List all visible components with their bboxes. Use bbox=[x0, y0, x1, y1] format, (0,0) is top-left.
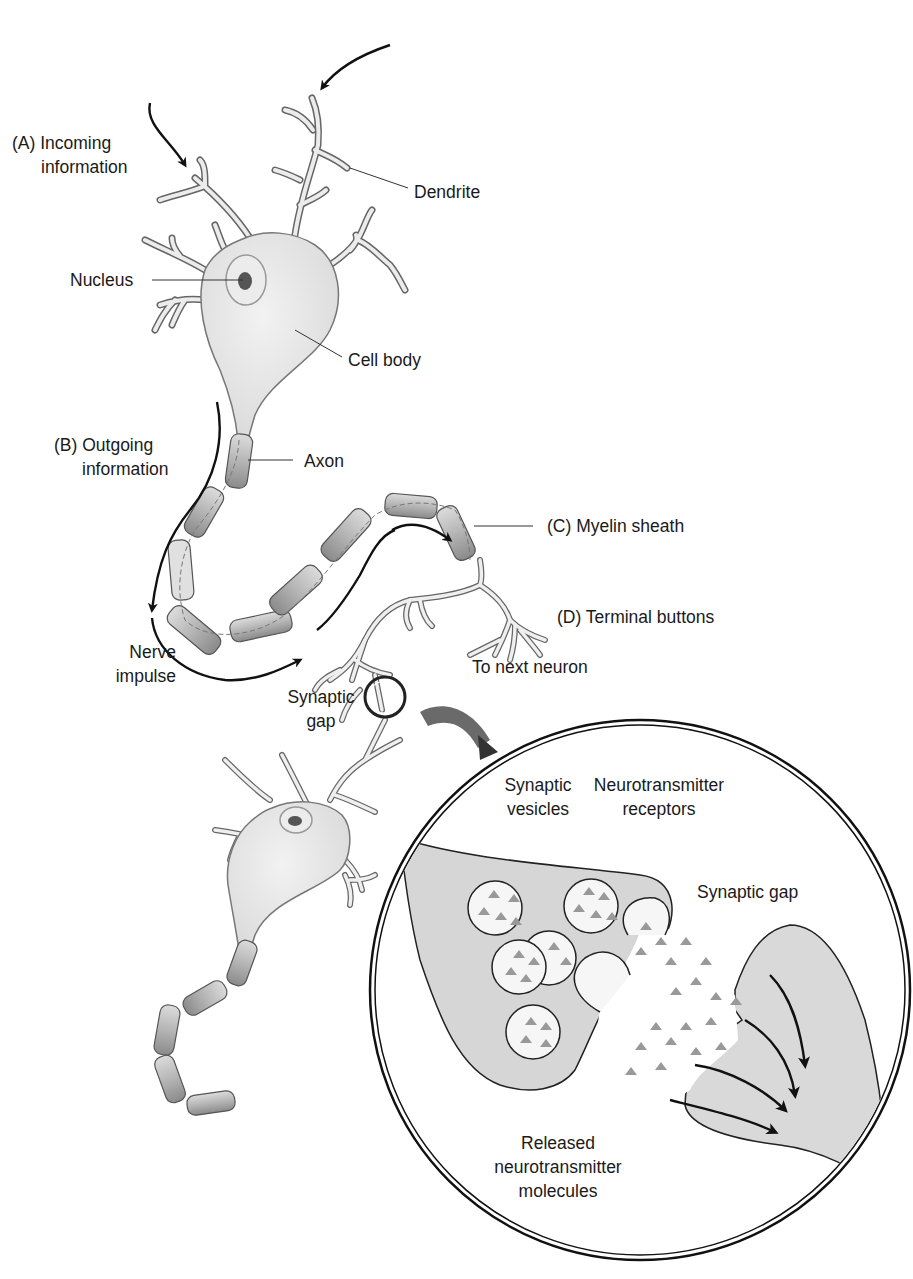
label-incoming-information: (A) Incoming information bbox=[12, 131, 128, 179]
label-axon: Axon bbox=[304, 449, 344, 473]
label-released-molecules: Released neurotransmitter molecules bbox=[478, 1131, 638, 1203]
label-terminal-buttons: (D) Terminal buttons bbox=[557, 605, 714, 629]
label-myelin-sheath: (C) Myelin sheath bbox=[547, 514, 684, 538]
label-nerve-impulse: Nerve impulse bbox=[100, 640, 176, 688]
label-synaptic-vesicles: Synaptic vesicles bbox=[488, 773, 588, 821]
incoming-arrow-left bbox=[149, 103, 185, 165]
nucleolus bbox=[238, 272, 252, 290]
label-dendrite: Dendrite bbox=[414, 180, 480, 204]
upper-neuron bbox=[145, 98, 545, 720]
incoming-arrow-right bbox=[322, 45, 390, 88]
label-nucleus: Nucleus bbox=[70, 268, 133, 292]
label-outgoing-information: (B) Outgoing information bbox=[54, 433, 169, 481]
label-cell-body: Cell body bbox=[348, 348, 421, 372]
cell-body bbox=[201, 233, 338, 440]
label-synaptic-gap: Synaptic gap bbox=[697, 880, 798, 904]
lower-neuron bbox=[152, 720, 400, 1116]
label-synaptic-gap-small: Synaptic gap bbox=[278, 685, 364, 733]
label-neurotransmitter-receptors: Neurotransmitter receptors bbox=[578, 773, 740, 821]
synapse-magnifier bbox=[365, 677, 405, 717]
label-to-next-neuron: To next neuron bbox=[472, 655, 588, 679]
